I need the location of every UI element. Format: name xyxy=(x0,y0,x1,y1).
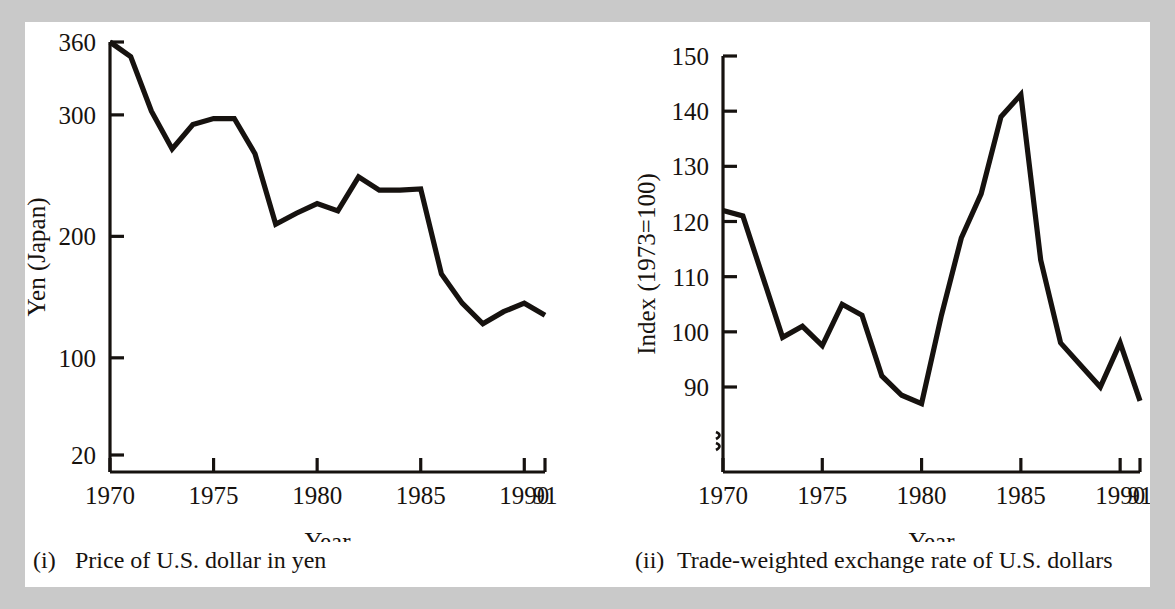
data-series-line xyxy=(110,42,545,324)
y-axis-title: Index (1973=100) xyxy=(633,173,661,354)
figure-page: 201002003003601970197519801985199091Year… xyxy=(25,22,1150,587)
line-chart-yen-per-dollar: 201002003003601970197519801985199091Year… xyxy=(25,22,625,542)
y-axis-tick-label: 100 xyxy=(672,319,710,346)
x-axis-title: Year xyxy=(908,528,955,542)
caption-text-left: Price of U.S. dollar in yen xyxy=(75,547,326,573)
x-axis-title: Year xyxy=(304,528,351,542)
x-axis-tick-label: 91 xyxy=(533,482,558,509)
y-axis-tick-label: 120 xyxy=(672,209,710,236)
y-axis-tick-label: 20 xyxy=(71,442,96,469)
figure-caption-right: (ii)Trade-weighted exchange rate of U.S.… xyxy=(635,547,1113,574)
y-axis-tick-label: 100 xyxy=(59,345,97,372)
y-axis-tick-label: 200 xyxy=(59,223,97,250)
y-axis-tick-label: 150 xyxy=(672,43,710,70)
figure-caption-left: (i)Price of U.S. dollar in yen xyxy=(33,547,326,574)
y-axis-tick-label: 300 xyxy=(59,102,97,129)
y-axis-tick-label: 110 xyxy=(672,264,709,291)
x-axis-tick-label: 1970 xyxy=(85,482,135,509)
x-axis-tick-label: 1985 xyxy=(996,482,1046,509)
y-axis-tick-label: 360 xyxy=(59,29,97,56)
x-axis-tick-label: 1975 xyxy=(797,482,847,509)
caption-text-right: Trade-weighted exchange rate of U.S. dol… xyxy=(677,547,1113,573)
caption-number-right: (ii) xyxy=(635,547,677,574)
axis-break-symbol xyxy=(716,432,720,450)
x-axis-tick-label: 1980 xyxy=(897,482,947,509)
y-axis-tick-label: 130 xyxy=(672,153,710,180)
x-axis-tick-label: 1980 xyxy=(292,482,342,509)
y-axis-tick-label: 140 xyxy=(672,98,710,125)
caption-number-left: (i) xyxy=(33,547,75,574)
y-axis-title: Yen (Japan) xyxy=(25,198,51,317)
line-chart-trade-weighted-index: 9010011012013014015019701975198019851990… xyxy=(625,22,1150,542)
data-series-line xyxy=(723,95,1140,404)
x-axis-tick-label: 1975 xyxy=(189,482,239,509)
x-axis-tick-label: 1985 xyxy=(396,482,446,509)
x-axis-tick-label: 1970 xyxy=(698,482,748,509)
y-axis-tick-label: 90 xyxy=(684,374,709,401)
x-axis-tick-label: 91 xyxy=(1128,482,1151,509)
